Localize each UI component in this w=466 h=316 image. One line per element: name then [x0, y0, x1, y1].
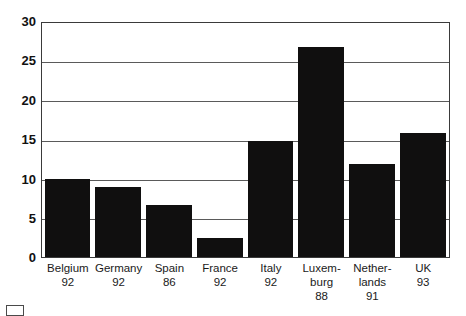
x-category-name: Nether- lands: [347, 261, 398, 289]
x-category-year: 92: [246, 275, 297, 289]
x-category-name: Spain: [144, 261, 195, 275]
plot-area: [41, 22, 450, 258]
x-category-year: 88: [296, 289, 347, 303]
bar-luxembourg: [298, 47, 344, 257]
bar-france: [197, 238, 243, 257]
x-category-spain: Spain 86: [144, 261, 195, 289]
x-category-germany: Germany 92: [93, 261, 144, 289]
y-tick-label-0: 0: [2, 251, 36, 264]
bar-chart: 30 25 20 15 10 5 0 Belgium 92 G: [0, 0, 466, 316]
x-category-name: France: [195, 261, 246, 275]
x-category-year: 92: [195, 275, 246, 289]
y-tick-label-30: 30: [2, 15, 36, 28]
x-category-year: 86: [144, 275, 195, 289]
x-category-netherlands: Nether- lands 91: [347, 261, 398, 303]
y-axis: 30 25 20 15 10 5 0: [0, 0, 36, 316]
bar-spain: [146, 205, 192, 257]
x-category-france: France 92: [195, 261, 246, 289]
x-category-name: Germany: [93, 261, 144, 275]
y-tick-label-5: 5: [2, 212, 36, 225]
bar-netherlands: [349, 164, 395, 257]
bar-belgium: [45, 179, 91, 257]
bar-uk: [400, 133, 446, 257]
x-category-belgium: Belgium 92: [43, 261, 94, 289]
x-category-year: 92: [43, 275, 94, 289]
y-tick-label-25: 25: [2, 54, 36, 67]
bar-italy: [248, 141, 294, 258]
y-tick-label-15: 15: [2, 133, 36, 146]
y-tick-label-10: 10: [2, 173, 36, 186]
scan-artifact-mark: [6, 305, 24, 316]
x-category-name: Belgium: [43, 261, 94, 275]
x-category-name: Luxem- burg: [296, 261, 347, 289]
x-category-uk: UK 93: [398, 261, 449, 289]
x-category-name: Italy: [246, 261, 297, 275]
x-category-name: UK: [398, 261, 449, 275]
bars-layer: [42, 23, 449, 257]
x-category-luxembourg: Luxem- burg 88: [296, 261, 347, 303]
x-category-year: 92: [93, 275, 144, 289]
x-axis: Belgium 92 Germany 92 Spain 86 France 92…: [41, 261, 450, 315]
bar-germany: [95, 187, 141, 257]
x-category-year: 93: [398, 275, 449, 289]
x-category-italy: Italy 92: [246, 261, 297, 289]
x-category-year: 91: [347, 289, 398, 303]
y-tick-label-20: 20: [2, 94, 36, 107]
